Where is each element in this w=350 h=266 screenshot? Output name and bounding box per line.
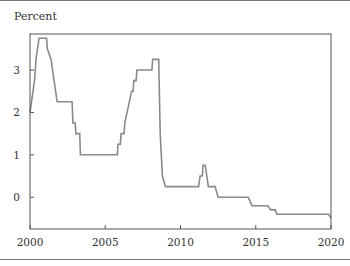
line-chart: 012320002005201020152020 [0,0,350,266]
y-tick-label: 1 [13,149,20,161]
tick-labels: 012320002005201020152020 [13,64,344,248]
axis-ticks [30,70,331,229]
y-tick-label: 3 [13,64,20,76]
x-tick-label: 2005 [92,236,119,248]
x-tick-label: 2010 [167,236,194,248]
y-tick-label: 0 [13,191,20,203]
x-tick-label: 2000 [17,236,44,248]
x-tick-label: 2020 [318,236,345,248]
y-tick-label: 2 [13,106,20,118]
bottom-rule [0,259,350,260]
series-line [30,38,331,218]
x-tick-label: 2015 [242,236,269,248]
